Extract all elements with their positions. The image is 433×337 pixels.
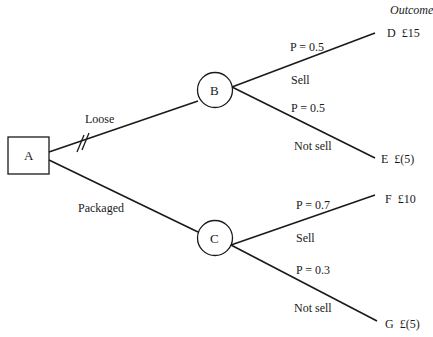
- chance-node-c-label: C: [210, 232, 219, 245]
- branch-loose-line: [49, 101, 198, 152]
- b-not-sell-label: Not sell: [294, 140, 332, 152]
- outcome-e: E £(5): [381, 153, 414, 165]
- b-sell-label: Sell: [291, 74, 310, 86]
- branch-packaged-label: Packaged: [78, 202, 124, 214]
- rejected-mark-icon: [82, 133, 89, 150]
- b-not-sell-probability: P = 0.5: [291, 102, 325, 114]
- decision-node-a-label: A: [24, 149, 33, 162]
- b-sell-probability: P = 0.5: [290, 41, 324, 53]
- c-not-sell-probability: P = 0.3: [296, 264, 330, 276]
- c-not-sell-label: Not sell: [294, 302, 332, 314]
- outcome-e-value: £(5): [394, 152, 414, 166]
- outcome-f: F £10: [385, 193, 416, 205]
- branch-packaged-line: [49, 160, 198, 232]
- outcome-d-value: £15: [402, 26, 420, 40]
- outcome-d-id: D: [387, 26, 396, 40]
- c-sell-label: Sell: [296, 232, 315, 244]
- c-sell-probability: P = 0.7: [296, 199, 330, 211]
- chance-node-b-label: B: [210, 84, 219, 97]
- outcome-e-id: E: [381, 152, 388, 166]
- outcome-f-value: £10: [398, 192, 416, 206]
- outcome-d: D £15: [387, 27, 420, 39]
- outcome-g-value: £(5): [400, 317, 420, 331]
- rejected-mark-icon: [77, 135, 84, 152]
- outcome-g: G £(5): [385, 318, 420, 330]
- outcome-f-id: F: [385, 192, 392, 206]
- outcome-column-header: Outcome: [390, 4, 433, 16]
- branch-loose-label: Loose: [85, 113, 114, 125]
- outcome-g-id: G: [385, 317, 394, 331]
